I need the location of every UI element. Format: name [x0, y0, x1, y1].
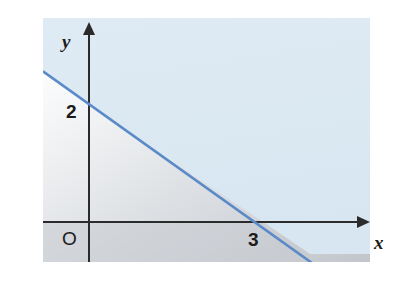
shaded-region-lower-band	[43, 222, 310, 262]
origin-label: O	[62, 228, 77, 249]
y-axis-label: y	[60, 31, 71, 52]
coordinate-graph: y x 2 3 O	[0, 0, 402, 285]
x-tick-label-3: 3	[248, 229, 259, 250]
x-axis-label: x	[373, 232, 384, 253]
figure-root: y x 2 3 O	[0, 0, 402, 285]
y-tick-label-2: 2	[66, 101, 77, 122]
